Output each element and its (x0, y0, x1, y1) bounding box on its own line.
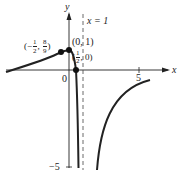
point-c-close: , 0) (81, 53, 93, 62)
origin-label: 0 (62, 74, 67, 84)
frac-den: 2 (33, 47, 37, 55)
graph (0, 0, 180, 179)
frac-num: 1 (33, 38, 37, 47)
point-a-open: (− (24, 42, 32, 51)
x-axis-arrow-icon (162, 68, 170, 73)
point-c-label: ( 1 2 , 0) (72, 50, 93, 65)
point-a-frac1: 1 2 (33, 38, 37, 55)
point-a-label: (− 1 2 , 8 9 ) (24, 38, 51, 55)
y-axis-arrow-icon (67, 12, 72, 20)
tick-label-neg5: −5 (49, 162, 60, 172)
point-a-comma: , (38, 42, 43, 51)
asymptote-label: x = 1 (87, 16, 108, 26)
point-a-frac2: 8 9 (43, 38, 47, 55)
x-axis-label: x (172, 65, 176, 75)
point-c-open: ( (72, 53, 75, 62)
y-axis-label: y (65, 2, 69, 12)
tick-label-5: 5 (136, 73, 141, 83)
frac-num: 8 (43, 38, 47, 47)
curve-left-branch (6, 50, 79, 168)
point-neg-half (58, 49, 64, 55)
frac-den: 9 (43, 47, 47, 55)
frac-den: 2 (76, 58, 80, 65)
point-b-label: (0, 1) (72, 37, 94, 47)
point-half-zero (73, 67, 79, 73)
point-c-frac: 1 2 (76, 50, 80, 65)
point-a-close: ) (48, 42, 51, 51)
curve-right-branch (97, 80, 150, 170)
